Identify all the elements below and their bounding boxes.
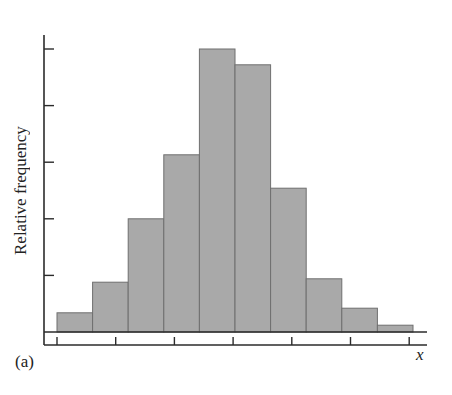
histogram-bar — [235, 65, 271, 332]
histogram-bar — [164, 155, 200, 332]
histogram-bars — [57, 49, 413, 332]
histogram-bar — [93, 282, 129, 332]
histogram-bar — [199, 49, 235, 332]
histogram-chart — [0, 0, 452, 395]
histogram-bar — [342, 308, 378, 332]
y-axis-ticks — [44, 49, 54, 275]
histogram-bar — [57, 313, 93, 332]
histogram-bar — [306, 279, 342, 332]
y-axis-label: Relative frequency — [3, 108, 39, 273]
histogram-bar — [377, 325, 413, 332]
x-axis-ticks — [57, 337, 409, 345]
x-axis-label: x — [416, 345, 424, 365]
panel-label: (a) — [15, 352, 34, 372]
histogram-bar — [128, 219, 164, 332]
histogram-bar — [271, 188, 307, 332]
